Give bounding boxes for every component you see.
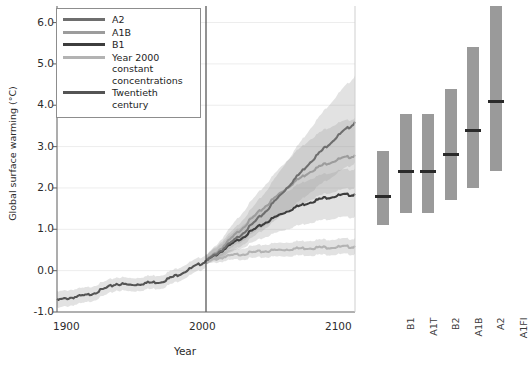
scenario-range-panel: B1A1TB2A1BA2A1FI [362,0,512,366]
scenario-label: A1FI [517,318,528,366]
scenario-range-bar: A2 [462,0,484,366]
y-tick-label: 5.0 [14,57,54,69]
best-estimate-marker [398,170,414,173]
best-estimate-marker [420,170,436,173]
legend-item: A2 [63,14,194,26]
y-tick-label: 2.0 [14,181,54,193]
legend: A2A1BB1Year 2000 constant concentrations… [56,8,201,118]
scenario-range-bar: A1T [395,0,417,366]
best-estimate-marker [465,129,481,132]
y-axis-title: Global surface warming (°C) [7,74,18,234]
scenario-range-bar: A1B [440,0,462,366]
legend-item-label: Year 2000 constant concentrations [112,52,194,87]
scenario-range-bar: B2 [417,0,439,366]
range-bar-body [400,114,412,213]
range-bar-body [422,114,434,213]
scenario-range-bar: A1FI [485,0,507,366]
legend-item: A1B [63,27,194,39]
range-bar-body [445,89,457,201]
range-bar-body [467,47,479,188]
best-estimate-marker [488,100,504,103]
y-tick-label: 3.0 [14,140,54,152]
legend-item: Year 2000 constant concentrations [63,52,194,87]
x-tick-label: 2100 [325,320,352,332]
x-tick-label: 1900 [53,320,80,332]
best-estimate-marker [375,195,391,198]
range-bar-body [490,6,502,171]
legend-swatch-icon [63,43,105,46]
scenario-range-bar: B1 [372,0,394,366]
legend-item-label: B1 [112,39,125,51]
legend-item-label: Twentieth century [112,87,194,110]
legend-item: B1 [63,39,194,51]
y-tick-label: 1.0 [14,222,54,234]
y-tick-label: 6.0 [14,16,54,28]
time-series-panel: -1.00.01.02.03.04.05.06.0 Global surface… [0,0,362,366]
legend-item: Twentieth century [63,87,194,110]
legend-swatch-icon [63,18,105,21]
legend-item-label: A2 [112,14,125,26]
x-axis-title: Year [145,345,225,357]
legend-swatch-icon [63,56,105,59]
best-estimate-marker [443,153,459,156]
legend-swatch-icon [63,31,105,34]
range-bar-body [377,151,389,225]
legend-swatch-icon [63,91,105,94]
y-tick-label: 4.0 [14,98,54,110]
y-tick-label: -1.0 [14,305,54,317]
y-tick-label: 0.0 [14,264,54,276]
legend-item-label: A1B [112,27,131,39]
x-tick-label: 2000 [189,320,216,332]
